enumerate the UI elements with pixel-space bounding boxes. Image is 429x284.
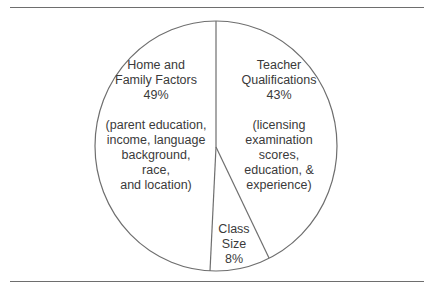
- label-value: 43%: [225, 88, 333, 103]
- detail-line: examination: [225, 133, 333, 148]
- label-line: Size: [212, 237, 256, 252]
- detail-line: (parent education,: [97, 118, 215, 133]
- slice-label-teacher-qualifications: Teacher Qualifications 43% (licensing ex…: [225, 58, 333, 193]
- detail-line: (licensing: [225, 118, 333, 133]
- detail-line: and location): [97, 178, 215, 193]
- label-line: Qualifications: [225, 73, 333, 88]
- label-line: Teacher: [225, 58, 333, 73]
- detail-line: income, language: [97, 133, 215, 148]
- detail-line: background,: [97, 148, 215, 163]
- detail-line: race,: [97, 163, 215, 178]
- label-value: 8%: [212, 252, 256, 267]
- detail-line: experience): [225, 178, 333, 193]
- label-value: 49%: [97, 88, 215, 103]
- detail-line: education, &: [225, 163, 333, 178]
- slice-label-home-family: Home and Family Factors 49% (parent educ…: [97, 58, 215, 193]
- bottom-rule: [10, 281, 424, 282]
- label-line: Family Factors: [97, 73, 215, 88]
- label-line: Home and: [97, 58, 215, 73]
- label-line: Class: [212, 222, 256, 237]
- slice-label-class-size: Class Size 8%: [212, 222, 256, 267]
- detail-line: scores,: [225, 148, 333, 163]
